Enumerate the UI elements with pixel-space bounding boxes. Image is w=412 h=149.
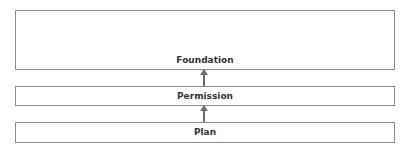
arrow-up-icon: [203, 106, 205, 122]
foundation-label: Foundation: [176, 56, 233, 65]
arrow-up-icon: [203, 70, 205, 86]
permission-label: Permission: [177, 92, 233, 101]
plan-label: Plan: [194, 128, 216, 137]
permission-layer: Permission: [15, 86, 395, 106]
foundation-layer: Foundation: [15, 10, 395, 70]
plan-layer: Plan: [15, 122, 395, 143]
